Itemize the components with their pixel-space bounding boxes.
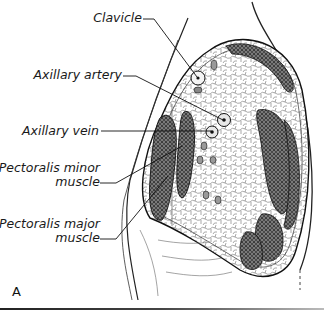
label-clavicle: Clavicle bbox=[93, 11, 142, 25]
anatomical-cross-section-drawing bbox=[0, 0, 324, 312]
label-pectoralis-major: Pectoralis major muscle bbox=[0, 217, 100, 245]
label-pectoralis-minor-line2: muscle bbox=[0, 175, 100, 189]
label-axillary-vein: Axillary vein bbox=[22, 124, 99, 138]
label-pectoralis-minor-line1: Pectoralis minor bbox=[0, 161, 100, 175]
panel-letter: A bbox=[12, 284, 21, 299]
label-pectoralis-major-line2: muscle bbox=[0, 231, 100, 245]
label-pectoralis-major-line1: Pectoralis major bbox=[0, 217, 100, 231]
label-pectoralis-minor: Pectoralis minor muscle bbox=[0, 161, 100, 189]
label-axillary-artery: Axillary artery bbox=[34, 68, 122, 82]
bottom-rule bbox=[0, 308, 324, 310]
